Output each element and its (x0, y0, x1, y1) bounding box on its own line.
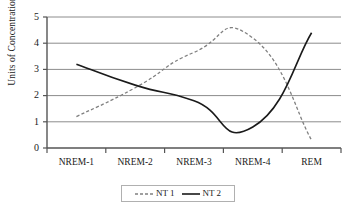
y-tick-label-0: 0 (25, 143, 39, 153)
x-tick-label-nrem-1: NREM-1 (47, 157, 106, 167)
y-tick-label-3: 3 (25, 64, 39, 74)
legend-item-nt-1[interactable]: NT 1 (135, 189, 175, 198)
x-tick-label-nrem-4: NREM-4 (223, 157, 282, 167)
x-tick-marks (47, 148, 341, 153)
x-tick-label-nrem-3: NREM-3 (165, 157, 224, 167)
legend-swatch-dashed-icon (135, 191, 153, 197)
legend-item-nt-2[interactable]: NT 2 (182, 189, 222, 198)
y-axis-title: Units of Concentration (7, 0, 17, 106)
legend-label-nt-1: NT 1 (156, 189, 175, 198)
y-tick-label-2: 2 (25, 90, 39, 100)
x-tick-label-rem: REM (282, 157, 341, 167)
chart-legend: NT 1 NT 2 (121, 185, 235, 202)
line-chart-canvas (0, 0, 354, 210)
x-tick-label-nrem-2: NREM-2 (106, 157, 165, 167)
chart-figure: Units of Concentration 5 4 3 2 1 0 NREM-… (0, 0, 354, 210)
y-tick-label-1: 1 (25, 117, 39, 127)
y-tick-label-4: 4 (25, 38, 39, 48)
legend-swatch-solid-icon (182, 191, 200, 197)
series-line-nt-1 (76, 28, 311, 141)
y-tick-label-5: 5 (25, 12, 39, 22)
series-line-nt-2 (76, 33, 311, 133)
legend-label-nt-2: NT 2 (203, 189, 222, 198)
